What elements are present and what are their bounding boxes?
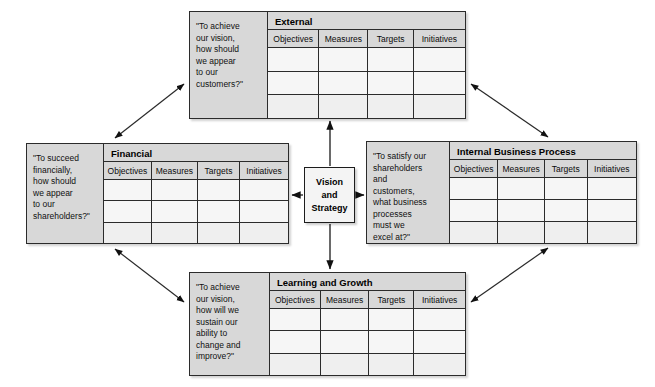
table-cell[interactable] — [588, 200, 636, 221]
panel-learning-title: Learning and Growth — [270, 273, 465, 291]
table-cell[interactable] — [240, 223, 288, 243]
panel-financial-grid: Financial Objectives Measures Targets In… — [104, 144, 288, 243]
connector-financial-to-learning — [115, 249, 184, 302]
table-cell[interactable] — [270, 309, 321, 330]
table-cell[interactable] — [450, 222, 498, 243]
panel-internal-title: Internal Business Process — [450, 142, 636, 160]
table-cell[interactable] — [368, 48, 413, 71]
panel-learning-and-growth[interactable]: "To achieve our vision, how will we sust… — [189, 272, 466, 376]
table-cell[interactable] — [152, 201, 198, 221]
column-header-initiatives: Initiatives — [414, 30, 465, 47]
panel-external[interactable]: "To achieve our vision, how should we ap… — [189, 11, 466, 119]
table-row[interactable] — [268, 72, 465, 96]
table-cell[interactable] — [369, 354, 414, 375]
connector-learning-to-internal — [471, 248, 548, 302]
table-cell[interactable] — [152, 180, 198, 200]
panel-financial-title: Financial — [104, 144, 288, 162]
panel-external-header-row: Objectives Measures Targets Initiatives — [268, 30, 465, 48]
column-header-targets: Targets — [545, 160, 588, 177]
table-cell[interactable] — [414, 72, 465, 95]
panel-internal-header-row: Objectives Measures Targets Initiatives — [450, 160, 636, 178]
table-cell[interactable] — [319, 95, 368, 118]
table-cell[interactable] — [450, 178, 498, 199]
table-cell[interactable] — [369, 309, 414, 330]
table-row[interactable] — [270, 309, 465, 331]
table-cell[interactable] — [270, 331, 321, 352]
table-row[interactable] — [450, 222, 636, 243]
column-header-measures: Measures — [152, 162, 198, 179]
center-line-2: and — [321, 189, 337, 202]
table-cell[interactable] — [152, 223, 198, 243]
table-row[interactable] — [270, 354, 465, 375]
table-cell[interactable] — [498, 222, 545, 243]
table-cell[interactable] — [240, 201, 288, 221]
table-row[interactable] — [270, 331, 465, 353]
column-header-measures: Measures — [498, 160, 545, 177]
column-header-objectives: Objectives — [450, 160, 498, 177]
column-header-objectives: Objectives — [268, 30, 319, 47]
table-row[interactable] — [104, 180, 288, 201]
panel-financial-question: "To succeed financially, how should we a… — [27, 144, 104, 243]
balanced-scorecard-diagram: "To achieve our vision, how should we ap… — [0, 0, 655, 387]
table-cell[interactable] — [414, 48, 465, 71]
table-cell[interactable] — [450, 200, 498, 221]
column-header-targets: Targets — [198, 162, 240, 179]
panel-external-question: "To achieve our vision, how should we ap… — [190, 12, 268, 118]
table-cell[interactable] — [321, 354, 370, 375]
table-cell[interactable] — [104, 180, 152, 200]
table-cell[interactable] — [588, 178, 636, 199]
table-cell[interactable] — [545, 178, 588, 199]
table-row[interactable] — [450, 178, 636, 200]
table-cell[interactable] — [104, 223, 152, 243]
panel-internal-business-process[interactable]: "To satisfy our shareholders and custome… — [366, 141, 637, 244]
table-cell[interactable] — [198, 201, 240, 221]
panel-learning-question: "To achieve our vision, how will we sust… — [190, 273, 270, 375]
table-cell[interactable] — [319, 48, 368, 71]
panel-internal-grid: Internal Business Process Objectives Mea… — [450, 142, 636, 243]
table-cell[interactable] — [198, 223, 240, 243]
column-header-measures: Measures — [321, 291, 370, 308]
table-cell[interactable] — [588, 222, 636, 243]
table-cell[interactable] — [270, 354, 321, 375]
table-cell[interactable] — [321, 331, 370, 352]
column-header-measures: Measures — [319, 30, 368, 47]
table-cell[interactable] — [268, 48, 319, 71]
table-cell[interactable] — [545, 222, 588, 243]
table-cell[interactable] — [319, 72, 368, 95]
column-header-objectives: Objectives — [270, 291, 321, 308]
table-row[interactable] — [268, 95, 465, 118]
column-header-targets: Targets — [369, 291, 414, 308]
table-cell[interactable] — [545, 200, 588, 221]
table-cell[interactable] — [198, 180, 240, 200]
panel-external-grid: External Objectives Measures Targets Ini… — [268, 12, 465, 118]
table-cell[interactable] — [268, 95, 319, 118]
table-row[interactable] — [104, 201, 288, 222]
table-cell[interactable] — [368, 95, 413, 118]
table-row[interactable] — [104, 223, 288, 243]
connector-financial-to-external — [115, 84, 184, 138]
table-row[interactable] — [450, 200, 636, 222]
table-cell[interactable] — [414, 95, 465, 118]
column-header-objectives: Objectives — [104, 162, 152, 179]
table-cell[interactable] — [498, 178, 545, 199]
panel-external-body — [268, 48, 465, 118]
table-cell[interactable] — [414, 354, 465, 375]
table-cell[interactable] — [368, 72, 413, 95]
panel-learning-grid: Learning and Growth Objectives Measures … — [270, 273, 465, 375]
table-row[interactable] — [268, 48, 465, 72]
vision-and-strategy-box[interactable]: Vision and Strategy — [304, 167, 355, 223]
column-header-targets: Targets — [368, 30, 413, 47]
table-cell[interactable] — [369, 331, 414, 352]
table-cell[interactable] — [268, 72, 319, 95]
panel-financial-header-row: Objectives Measures Targets Initiatives — [104, 162, 288, 180]
center-line-3: Strategy — [311, 202, 347, 215]
table-cell[interactable] — [414, 309, 465, 330]
panel-financial[interactable]: "To succeed financially, how should we a… — [26, 143, 289, 244]
table-cell[interactable] — [240, 180, 288, 200]
panel-learning-header-row: Objectives Measures Targets Initiatives — [270, 291, 465, 309]
table-cell[interactable] — [104, 201, 152, 221]
table-cell[interactable] — [321, 309, 370, 330]
table-cell[interactable] — [414, 331, 465, 352]
panel-internal-body — [450, 178, 636, 243]
table-cell[interactable] — [498, 200, 545, 221]
